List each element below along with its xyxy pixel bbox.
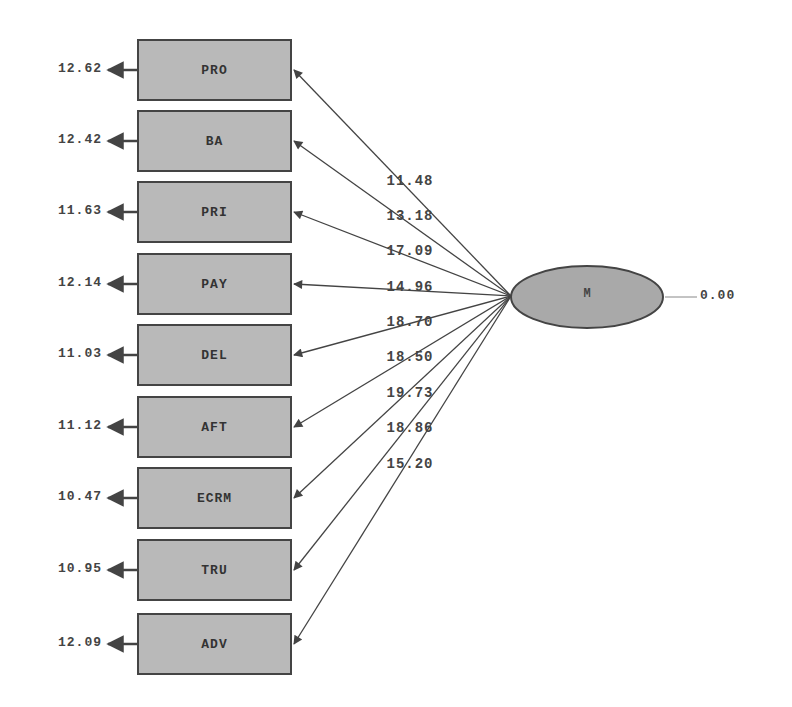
error-variance: 12.14: [30, 275, 102, 290]
latent-variance: 0.00: [700, 288, 735, 303]
indicator-label: DEL: [201, 348, 227, 363]
indicator-box-pri: PRI: [137, 181, 292, 243]
indicator-label: PRI: [201, 205, 227, 220]
indicator-box-del: DEL: [137, 324, 292, 386]
indicator-label: PRO: [201, 63, 227, 78]
error-variance: 11.12: [30, 418, 102, 433]
error-variance: 10.47: [30, 489, 102, 504]
loading-coefficient: 13.18: [366, 208, 454, 224]
loading-coefficient: 18.50: [366, 349, 454, 365]
indicator-box-pay: PAY: [137, 253, 292, 315]
loading-coefficient: 17.09: [366, 243, 454, 259]
indicator-label: TRU: [201, 563, 227, 578]
indicator-box-tru: TRU: [137, 539, 292, 601]
loading-coefficient: 19.73: [366, 385, 454, 401]
error-arrows: [108, 70, 137, 644]
error-variance: 11.03: [30, 346, 102, 361]
loading-coefficient: 15.20: [366, 456, 454, 472]
indicator-box-ba: BA: [137, 110, 292, 172]
indicator-label: ADV: [201, 637, 227, 652]
indicator-label: AFT: [201, 420, 227, 435]
indicator-label: ECRM: [197, 491, 232, 506]
loading-coefficient: 18.70: [366, 314, 454, 330]
error-variance: 10.95: [30, 561, 102, 576]
loading-coefficient: 18.86: [366, 420, 454, 436]
error-variance: 12.42: [30, 132, 102, 147]
loading-coefficient: 11.48: [366, 173, 454, 189]
error-variance: 12.62: [30, 61, 102, 76]
indicator-label: BA: [206, 134, 224, 149]
indicator-box-ecrm: ECRM: [137, 467, 292, 529]
indicator-label: PAY: [201, 277, 227, 292]
indicator-box-adv: ADV: [137, 613, 292, 675]
indicator-box-aft: AFT: [137, 396, 292, 458]
error-variance: 12.09: [30, 635, 102, 650]
loading-coefficient: 14.96: [366, 279, 454, 295]
error-variance: 11.63: [30, 203, 102, 218]
indicator-box-pro: PRO: [137, 39, 292, 101]
latent-name: M: [547, 287, 627, 301]
